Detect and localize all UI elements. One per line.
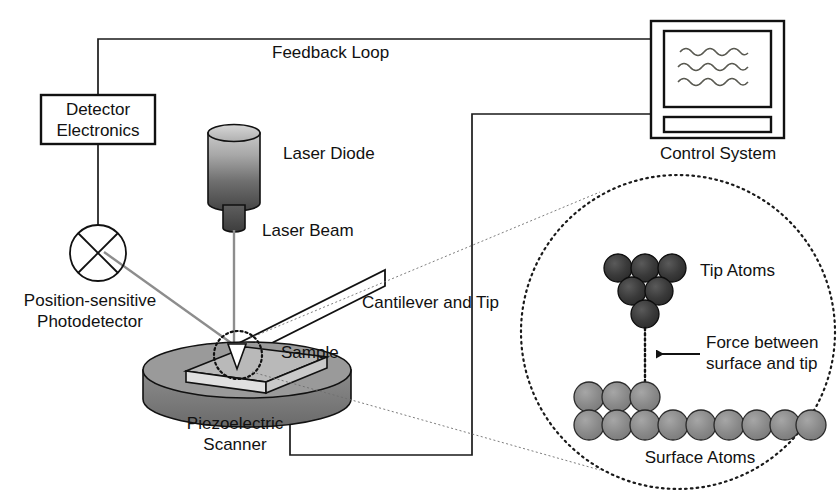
detector-electronics-label-line2: Electronics bbox=[56, 121, 139, 140]
surface-atom bbox=[742, 410, 772, 440]
afm-schematic-svg: Detector Electronics Feedback Loop Contr… bbox=[0, 0, 838, 499]
surface-atoms-label: Surface Atoms bbox=[645, 448, 756, 467]
surface-atom bbox=[714, 410, 744, 440]
force-label-line2: surface and tip bbox=[706, 354, 818, 373]
laser-beam-label: Laser Beam bbox=[262, 221, 354, 240]
laser-diode-label: Laser Diode bbox=[283, 144, 375, 163]
afm-diagram-canvas: Detector Electronics Feedback Loop Contr… bbox=[0, 0, 838, 499]
laser-diode-top bbox=[208, 125, 260, 142]
control-system-monitor[interactable] bbox=[651, 21, 784, 138]
detector-electronics-label-line1: Detector bbox=[66, 100, 131, 119]
surface-atom bbox=[574, 410, 604, 440]
surface-atom bbox=[658, 410, 688, 440]
surface-atoms-upper-row bbox=[574, 382, 660, 412]
surface-atom bbox=[630, 410, 660, 440]
monitor-screen bbox=[664, 31, 771, 107]
photodetector-label-line2: Photodetector bbox=[37, 312, 143, 331]
photodetector-label-line1: Position-sensitive bbox=[24, 291, 156, 310]
cantilever-and-tip-label: Cantilever and Tip bbox=[362, 293, 499, 312]
feedback-loop-label: Feedback Loop bbox=[272, 43, 389, 62]
laser-diode-neck bbox=[223, 205, 245, 232]
surface-atom bbox=[686, 410, 716, 440]
force-label-line1: Force between bbox=[706, 333, 818, 352]
surface-atom bbox=[574, 382, 604, 412]
piezo-scanner-label-line2: Scanner bbox=[203, 435, 267, 454]
tip-atoms-label: Tip Atoms bbox=[700, 261, 775, 280]
surface-atom bbox=[602, 410, 632, 440]
surface-atom bbox=[630, 382, 660, 412]
surface-atom bbox=[796, 410, 826, 440]
laser-diode-barrel bbox=[208, 133, 260, 211]
monitor-base-slot bbox=[664, 117, 771, 132]
surface-atoms-lower-row bbox=[574, 410, 826, 440]
sample-label: Sample bbox=[281, 343, 339, 362]
control-system-label: Control System bbox=[660, 144, 776, 163]
surface-atom bbox=[602, 382, 632, 412]
tip-atom bbox=[631, 300, 659, 328]
piezo-scanner-label-line1: Piezoelectric bbox=[187, 414, 284, 433]
